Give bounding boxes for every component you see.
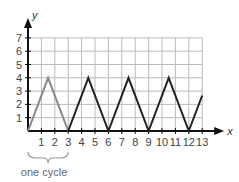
y-tick-label: 6 bbox=[16, 45, 22, 57]
y-axis-arrow-icon bbox=[24, 18, 32, 28]
grid bbox=[28, 38, 202, 131]
x-tick-label: 10 bbox=[156, 136, 168, 148]
x-axis-label: x bbox=[226, 125, 233, 137]
y-tick-label: 7 bbox=[16, 32, 22, 44]
y-tick-label: 4 bbox=[16, 72, 22, 84]
x-tick-label: 5 bbox=[92, 136, 98, 148]
x-tick-label: 6 bbox=[105, 136, 111, 148]
cycle-annotation: one cycle bbox=[21, 166, 67, 178]
x-tick-label: 4 bbox=[79, 136, 85, 148]
x-tick-label: 9 bbox=[146, 136, 152, 148]
brace-icon bbox=[28, 152, 68, 163]
x-tick-label: 1 bbox=[38, 136, 44, 148]
y-tick-label: 2 bbox=[16, 98, 22, 110]
y-tick-label: 5 bbox=[16, 59, 22, 71]
x-tick-label: 13 bbox=[196, 136, 208, 148]
x-tick-label: 3 bbox=[65, 136, 71, 148]
x-tick-label: 7 bbox=[119, 136, 125, 148]
x-tick-label: 11 bbox=[170, 136, 181, 148]
y-axis-label: y bbox=[31, 9, 39, 21]
x-tick-label: 8 bbox=[132, 136, 138, 148]
x-tick-label: 12 bbox=[183, 136, 195, 148]
chart: 123456789101112131234567 y x one cycle bbox=[0, 0, 239, 182]
x-axis-arrow-icon bbox=[214, 127, 224, 135]
y-tick-label: 1 bbox=[16, 112, 22, 124]
y-tick-label: 3 bbox=[16, 85, 22, 97]
x-tick-label: 2 bbox=[52, 136, 58, 148]
one-cycle-brace bbox=[28, 152, 68, 163]
